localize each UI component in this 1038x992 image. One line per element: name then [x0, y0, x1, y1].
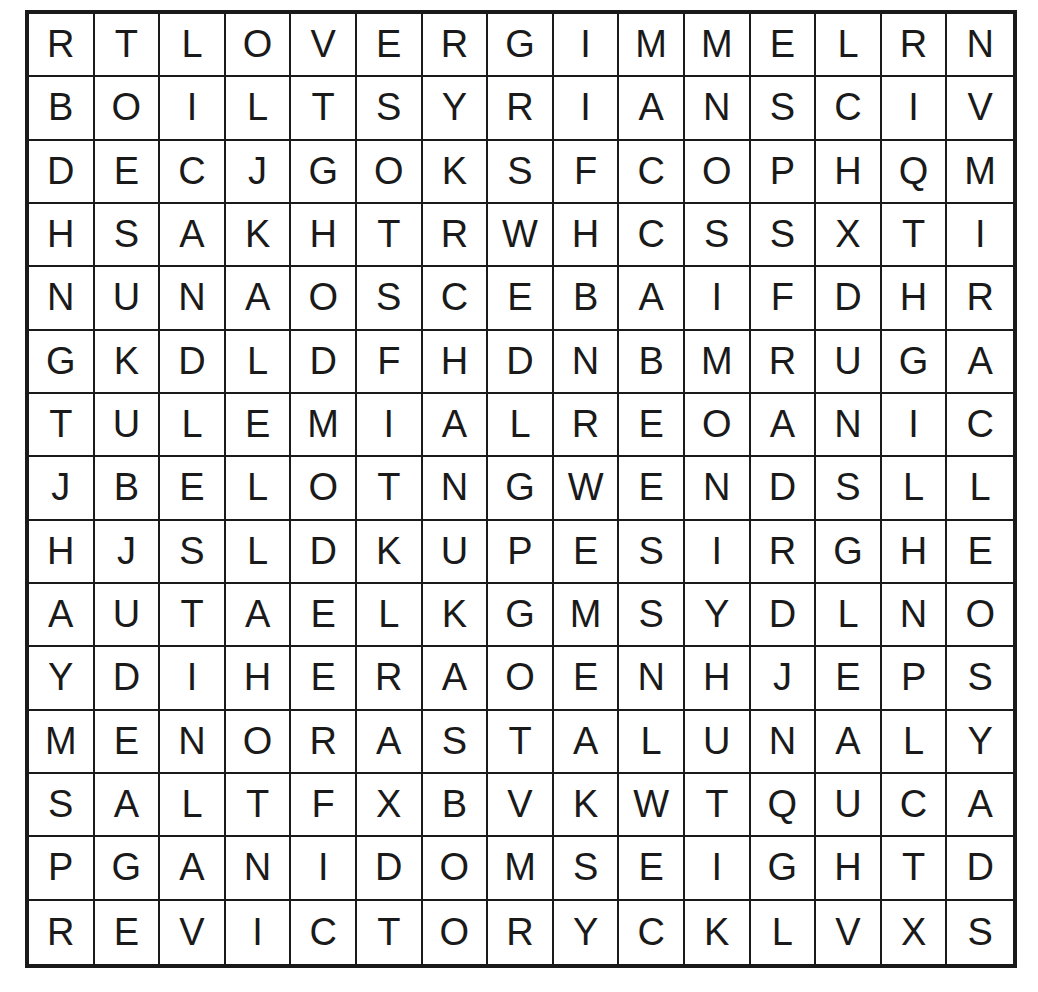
grid-cell-r12-c4[interactable]: O — [226, 711, 292, 774]
grid-cell-r3-c6[interactable]: O — [357, 141, 423, 204]
grid-cell-r5-c7[interactable]: C — [423, 267, 489, 330]
grid-cell-r8-c12[interactable]: D — [751, 457, 817, 520]
grid-cell-r11-c15[interactable]: S — [947, 647, 1013, 710]
grid-cell-r4-c10[interactable]: C — [619, 204, 685, 267]
grid-cell-r3-c11[interactable]: O — [685, 141, 751, 204]
grid-cell-r12-c10[interactable]: L — [619, 711, 685, 774]
grid-cell-r12-c3[interactable]: N — [160, 711, 226, 774]
grid-cell-r7-c2[interactable]: U — [95, 394, 161, 457]
grid-cell-r7-c11[interactable]: O — [685, 394, 751, 457]
grid-cell-r11-c3[interactable]: I — [160, 647, 226, 710]
grid-cell-r4-c15[interactable]: I — [947, 204, 1013, 267]
grid-cell-r10-c3[interactable]: T — [160, 584, 226, 647]
grid-cell-r14-c5[interactable]: I — [291, 837, 357, 900]
grid-cell-r5-c13[interactable]: D — [816, 267, 882, 330]
grid-cell-r5-c6[interactable]: S — [357, 267, 423, 330]
grid-cell-r4-c2[interactable]: S — [95, 204, 161, 267]
grid-cell-r4-c1[interactable]: H — [29, 204, 95, 267]
grid-cell-r11-c2[interactable]: D — [95, 647, 161, 710]
grid-cell-r2-c14[interactable]: I — [882, 77, 948, 140]
grid-cell-r9-c14[interactable]: H — [882, 521, 948, 584]
grid-cell-r3-c9[interactable]: F — [554, 141, 620, 204]
grid-cell-r1-c8[interactable]: G — [488, 14, 554, 77]
grid-cell-r6-c13[interactable]: U — [816, 331, 882, 394]
grid-cell-r1-c5[interactable]: V — [291, 14, 357, 77]
grid-cell-r4-c5[interactable]: H — [291, 204, 357, 267]
grid-cell-r5-c4[interactable]: A — [226, 267, 292, 330]
grid-cell-r6-c4[interactable]: L — [226, 331, 292, 394]
grid-cell-r9-c15[interactable]: E — [947, 521, 1013, 584]
grid-cell-r7-c9[interactable]: R — [554, 394, 620, 457]
grid-cell-r13-c10[interactable]: W — [619, 774, 685, 837]
grid-cell-r12-c13[interactable]: A — [816, 711, 882, 774]
grid-cell-r15-c2[interactable]: E — [95, 901, 161, 964]
grid-cell-r6-c15[interactable]: A — [947, 331, 1013, 394]
grid-cell-r13-c12[interactable]: Q — [751, 774, 817, 837]
grid-cell-r8-c8[interactable]: G — [488, 457, 554, 520]
grid-cell-r9-c2[interactable]: J — [95, 521, 161, 584]
grid-cell-r13-c11[interactable]: T — [685, 774, 751, 837]
grid-cell-r2-c5[interactable]: T — [291, 77, 357, 140]
grid-cell-r10-c4[interactable]: A — [226, 584, 292, 647]
grid-cell-r5-c8[interactable]: E — [488, 267, 554, 330]
grid-cell-r12-c7[interactable]: S — [423, 711, 489, 774]
grid-cell-r13-c15[interactable]: A — [947, 774, 1013, 837]
grid-cell-r15-c10[interactable]: C — [619, 901, 685, 964]
grid-cell-r14-c3[interactable]: A — [160, 837, 226, 900]
grid-cell-r10-c12[interactable]: D — [751, 584, 817, 647]
grid-cell-r13-c4[interactable]: T — [226, 774, 292, 837]
grid-cell-r8-c13[interactable]: S — [816, 457, 882, 520]
grid-cell-r5-c1[interactable]: N — [29, 267, 95, 330]
grid-cell-r10-c7[interactable]: K — [423, 584, 489, 647]
grid-cell-r9-c5[interactable]: D — [291, 521, 357, 584]
grid-cell-r2-c6[interactable]: S — [357, 77, 423, 140]
grid-cell-r3-c4[interactable]: J — [226, 141, 292, 204]
grid-cell-r2-c9[interactable]: I — [554, 77, 620, 140]
grid-cell-r11-c4[interactable]: H — [226, 647, 292, 710]
grid-cell-r15-c7[interactable]: O — [423, 901, 489, 964]
grid-cell-r10-c10[interactable]: S — [619, 584, 685, 647]
grid-cell-r11-c10[interactable]: N — [619, 647, 685, 710]
grid-cell-r6-c10[interactable]: B — [619, 331, 685, 394]
grid-cell-r10-c2[interactable]: U — [95, 584, 161, 647]
grid-cell-r1-c3[interactable]: L — [160, 14, 226, 77]
grid-cell-r14-c4[interactable]: N — [226, 837, 292, 900]
grid-cell-r13-c8[interactable]: V — [488, 774, 554, 837]
grid-cell-r15-c11[interactable]: K — [685, 901, 751, 964]
grid-cell-r13-c5[interactable]: F — [291, 774, 357, 837]
grid-cell-r5-c9[interactable]: B — [554, 267, 620, 330]
grid-cell-r3-c15[interactable]: M — [947, 141, 1013, 204]
grid-cell-r7-c12[interactable]: A — [751, 394, 817, 457]
grid-cell-r10-c15[interactable]: O — [947, 584, 1013, 647]
grid-cell-r6-c2[interactable]: K — [95, 331, 161, 394]
grid-cell-r11-c6[interactable]: R — [357, 647, 423, 710]
grid-cell-r9-c8[interactable]: P — [488, 521, 554, 584]
grid-cell-r4-c12[interactable]: S — [751, 204, 817, 267]
grid-cell-r5-c3[interactable]: N — [160, 267, 226, 330]
grid-cell-r13-c6[interactable]: X — [357, 774, 423, 837]
grid-cell-r11-c13[interactable]: E — [816, 647, 882, 710]
grid-cell-r9-c1[interactable]: H — [29, 521, 95, 584]
grid-cell-r2-c10[interactable]: A — [619, 77, 685, 140]
grid-cell-r7-c15[interactable]: C — [947, 394, 1013, 457]
grid-cell-r10-c9[interactable]: M — [554, 584, 620, 647]
grid-cell-r9-c4[interactable]: L — [226, 521, 292, 584]
grid-cell-r3-c14[interactable]: Q — [882, 141, 948, 204]
grid-cell-r10-c6[interactable]: L — [357, 584, 423, 647]
grid-cell-r9-c3[interactable]: S — [160, 521, 226, 584]
grid-cell-r5-c5[interactable]: O — [291, 267, 357, 330]
grid-cell-r7-c6[interactable]: I — [357, 394, 423, 457]
grid-cell-r7-c4[interactable]: E — [226, 394, 292, 457]
grid-cell-r6-c1[interactable]: G — [29, 331, 95, 394]
grid-cell-r13-c9[interactable]: K — [554, 774, 620, 837]
grid-cell-r15-c15[interactable]: S — [947, 901, 1013, 964]
grid-cell-r8-c10[interactable]: E — [619, 457, 685, 520]
grid-cell-r6-c12[interactable]: R — [751, 331, 817, 394]
grid-cell-r7-c14[interactable]: I — [882, 394, 948, 457]
grid-cell-r1-c15[interactable]: N — [947, 14, 1013, 77]
grid-cell-r8-c1[interactable]: J — [29, 457, 95, 520]
grid-cell-r1-c11[interactable]: M — [685, 14, 751, 77]
grid-cell-r3-c10[interactable]: C — [619, 141, 685, 204]
grid-cell-r6-c3[interactable]: D — [160, 331, 226, 394]
grid-cell-r8-c3[interactable]: E — [160, 457, 226, 520]
